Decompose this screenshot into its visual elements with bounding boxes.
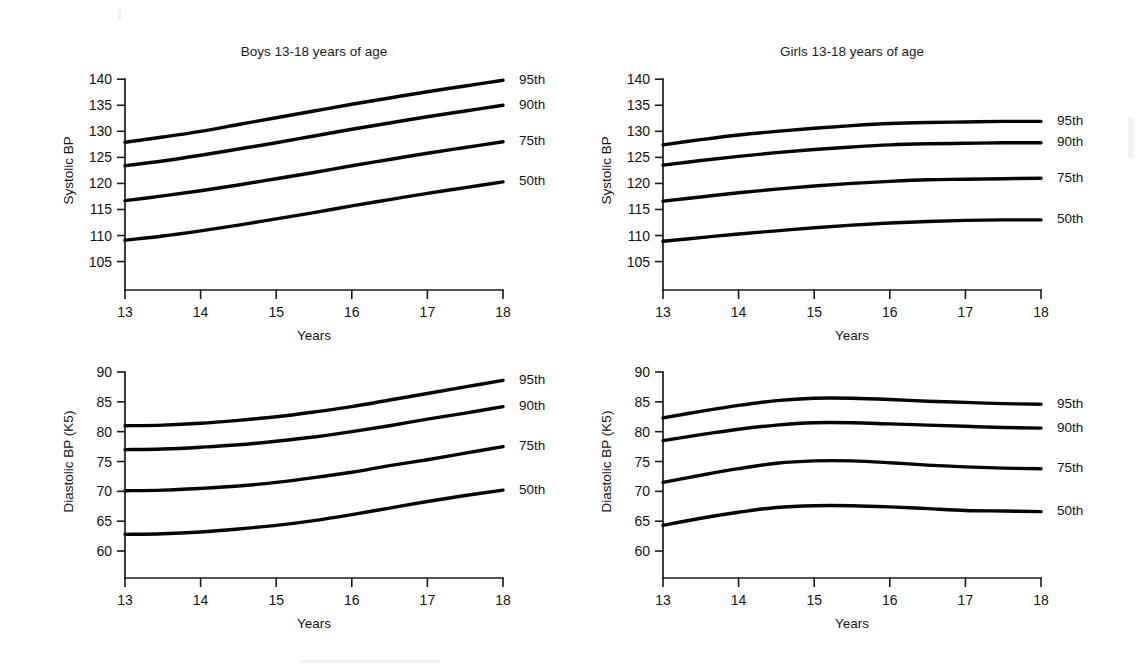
blood-pressure-percentile-figure: Boys 13-18 years of age10511011512012513…: [0, 0, 1142, 671]
y-tick-label: 115: [90, 201, 113, 217]
scan-artifact: [1128, 118, 1134, 158]
percentile-label-50th: 50th: [519, 173, 545, 188]
chart-panel-girls-systolic: Girls 13-18 years of age1051101151201251…: [552, 34, 1132, 334]
scan-artifact: [118, 8, 121, 20]
chart-title: Girls 13-18 years of age: [780, 44, 924, 59]
y-tick-label: 85: [634, 394, 650, 410]
percentile-curve-95th: [125, 380, 503, 425]
percentile-curve-50th: [663, 505, 1041, 525]
x-tick-label: 18: [1033, 592, 1049, 608]
x-tick-label: 17: [420, 304, 436, 320]
x-tick-label: 16: [882, 592, 898, 608]
percentile-label-95th: 95th: [1057, 396, 1083, 411]
x-tick-label: 13: [117, 304, 133, 320]
y-tick-label: 120: [627, 175, 651, 191]
y-tick-label: 75: [96, 454, 112, 470]
x-tick-label: 17: [958, 304, 974, 320]
percentile-curve-50th: [125, 182, 503, 240]
x-tick-label: 15: [806, 304, 822, 320]
y-axis-title: Systolic BP: [599, 136, 614, 204]
percentile-curve-90th: [663, 143, 1041, 165]
x-axis-title: Years: [297, 616, 331, 631]
x-tick-label: 14: [193, 304, 209, 320]
x-tick-label: 13: [655, 592, 671, 608]
y-axis-title: Diastolic BP (K5): [599, 411, 614, 513]
chart-panel-boys-diastolic: 60657075808590131415161718YearsDiastolic…: [18, 352, 578, 652]
y-tick-label: 140: [627, 71, 651, 87]
percentile-label-90th: 90th: [1057, 134, 1083, 149]
percentile-curve-95th: [125, 80, 503, 142]
y-tick-label: 110: [90, 228, 113, 244]
x-tick-label: 14: [731, 592, 747, 608]
x-tick-label: 16: [344, 592, 360, 608]
chart-panel-boys-systolic: Boys 13-18 years of age10511011512012513…: [18, 34, 578, 334]
y-tick-label: 125: [627, 149, 651, 165]
y-tick-label: 70: [96, 483, 112, 499]
percentile-label-95th: 95th: [1057, 113, 1083, 128]
x-tick-label: 18: [495, 592, 511, 608]
percentile-curve-50th: [125, 490, 503, 534]
percentile-label-95th: 95th: [519, 372, 545, 387]
y-tick-label: 65: [634, 513, 650, 529]
percentile-label-50th: 50th: [1057, 211, 1083, 226]
percentile-label-90th: 90th: [519, 398, 545, 413]
x-axis-title: Years: [835, 616, 869, 631]
x-tick-label: 16: [882, 304, 898, 320]
y-tick-label: 135: [89, 97, 113, 113]
percentile-curve-75th: [663, 461, 1041, 483]
percentile-curve-90th: [663, 422, 1041, 440]
percentile-curve-75th: [125, 447, 503, 491]
y-tick-label: 105: [89, 254, 113, 270]
y-tick-label: 125: [89, 149, 113, 165]
y-axis-title: Diastolic BP (K5): [61, 411, 76, 513]
percentile-curve-95th: [663, 398, 1041, 418]
y-tick-label: 60: [634, 543, 650, 559]
y-tick-label: 115: [628, 201, 651, 217]
percentile-curve-75th: [663, 178, 1041, 201]
y-tick-label: 120: [89, 175, 113, 191]
y-tick-label: 90: [96, 364, 112, 380]
x-tick-label: 17: [958, 592, 974, 608]
x-tick-label: 18: [495, 304, 511, 320]
x-tick-label: 15: [268, 304, 284, 320]
y-tick-label: 85: [96, 394, 112, 410]
percentile-curve-50th: [663, 220, 1041, 241]
percentile-label-75th: 75th: [519, 133, 545, 148]
chart-panel-girls-diastolic: 60657075808590131415161718YearsDiastolic…: [552, 352, 1132, 652]
scan-artifact: [300, 660, 440, 663]
percentile-label-95th: 95th: [519, 72, 545, 87]
y-tick-label: 110: [628, 228, 651, 244]
chart-title: Boys 13-18 years of age: [241, 44, 387, 59]
x-tick-label: 13: [655, 304, 671, 320]
x-axis-title: Years: [835, 328, 869, 343]
x-tick-label: 16: [344, 304, 360, 320]
y-tick-label: 130: [627, 123, 651, 139]
percentile-label-50th: 50th: [519, 482, 545, 497]
percentile-label-75th: 75th: [519, 438, 545, 453]
y-tick-label: 140: [89, 71, 113, 87]
x-tick-label: 13: [117, 592, 133, 608]
percentile-label-90th: 90th: [1057, 420, 1083, 435]
x-tick-label: 18: [1033, 304, 1049, 320]
x-tick-label: 14: [731, 304, 747, 320]
x-tick-label: 14: [193, 592, 209, 608]
y-tick-label: 105: [627, 254, 651, 270]
y-tick-label: 75: [634, 454, 650, 470]
y-tick-label: 70: [634, 483, 650, 499]
y-tick-label: 80: [634, 424, 650, 440]
x-tick-label: 15: [268, 592, 284, 608]
y-tick-label: 130: [89, 123, 113, 139]
y-tick-label: 80: [96, 424, 112, 440]
x-axis-title: Years: [297, 328, 331, 343]
percentile-label-50th: 50th: [1057, 503, 1083, 518]
x-tick-label: 15: [806, 592, 822, 608]
y-tick-label: 65: [96, 513, 112, 529]
percentile-label-90th: 90th: [519, 97, 545, 112]
percentile-label-75th: 75th: [1057, 460, 1083, 475]
y-tick-label: 90: [634, 364, 650, 380]
y-axis-title: Systolic BP: [61, 136, 76, 204]
y-tick-label: 135: [627, 97, 651, 113]
y-tick-label: 60: [96, 543, 112, 559]
x-tick-label: 17: [420, 592, 436, 608]
percentile-label-75th: 75th: [1057, 170, 1083, 185]
